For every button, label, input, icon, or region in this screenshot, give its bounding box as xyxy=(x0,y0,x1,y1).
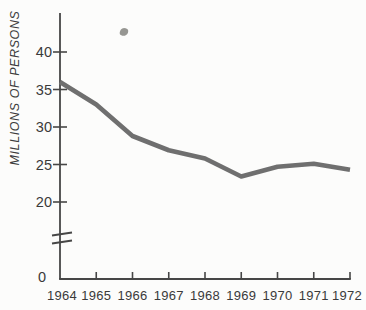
y-origin-label: 0 xyxy=(38,269,46,285)
axis-break-mark xyxy=(52,233,72,236)
axis-break-mark xyxy=(52,241,72,244)
data-line xyxy=(60,82,350,177)
x-tick-label: 1972 xyxy=(332,288,362,303)
y-tick-label: 25 xyxy=(36,157,52,173)
y-tick-label: 35 xyxy=(36,82,52,98)
x-tick-label: 1969 xyxy=(226,288,256,303)
x-tick-label: 1971 xyxy=(299,288,329,303)
y-axis-title: MILLIONS OF PERSONS xyxy=(8,8,26,168)
y-tick-label: 30 xyxy=(36,119,52,135)
x-tick-label: 1967 xyxy=(154,288,184,303)
x-tick-label: 1966 xyxy=(117,288,147,303)
x-tick-label: 1964 xyxy=(47,288,77,303)
y-tick-label: 20 xyxy=(36,194,52,210)
line-chart-figure: 4035302520019641965196619671968196919701… xyxy=(0,0,366,310)
chart-canvas: 4035302520019641965196619671968196919701… xyxy=(0,0,366,310)
x-tick-label: 1970 xyxy=(262,288,292,303)
y-tick-label: 40 xyxy=(36,44,52,60)
x-tick-label: 1968 xyxy=(190,288,220,303)
x-tick-label: 1965 xyxy=(81,288,111,303)
